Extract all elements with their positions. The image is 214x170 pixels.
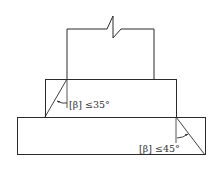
lower-rigid-angle-line: [176, 117, 205, 155]
upper-rigid-angle-line: [45, 79, 67, 117]
upper-step-block: [46, 80, 177, 118]
foundation-diagram: [β] ≤35° [β] ≤45°: [0, 0, 214, 170]
lower-angle-label: [β] ≤45°: [139, 143, 180, 154]
column-outline: [67, 16, 154, 79]
upper-angle-label: [β] ≤35°: [69, 99, 110, 110]
